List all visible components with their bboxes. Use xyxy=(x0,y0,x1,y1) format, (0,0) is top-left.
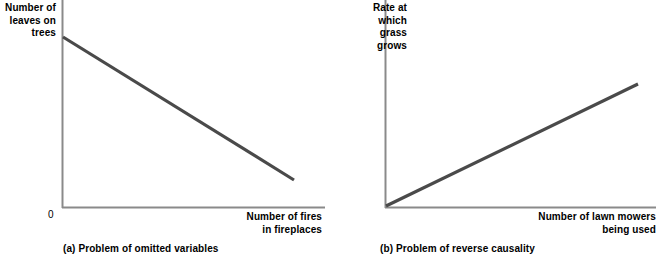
y-axis-label-a: Number of leaves on trees xyxy=(0,2,56,40)
x-axis-label-b: Number of lawn mowers being used xyxy=(469,211,656,236)
y-axis-label-b: Rate at which grass grows xyxy=(351,2,407,52)
panel-reverse-causality: Rate at which grass grows Number of lawn… xyxy=(329,0,657,263)
origin-label-a: 0 xyxy=(48,209,54,221)
panel-caption-b: (b) Problem of reverse causality xyxy=(380,243,535,254)
panel-omitted-variables: Number of leaves on trees Number of fire… xyxy=(0,0,328,263)
figure-container: Number of leaves on trees Number of fire… xyxy=(0,0,657,263)
x-axis-label-a: Number of fires in fireplaces xyxy=(150,211,322,236)
data-line-positive-slope xyxy=(386,84,638,206)
panel-caption-a: (a) Problem of omitted variables xyxy=(63,243,218,254)
data-line-negative-slope xyxy=(63,37,294,180)
